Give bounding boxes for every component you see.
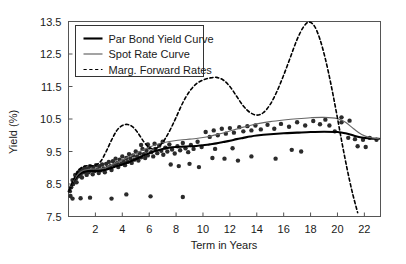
scatter-point — [181, 195, 185, 199]
y-tick-label: 9.5 — [46, 146, 61, 158]
scatter-point — [273, 156, 277, 160]
scatter-point — [186, 150, 190, 154]
scatter-point — [279, 122, 283, 126]
scatter-point — [210, 156, 214, 160]
scatter-point — [88, 195, 92, 199]
scatter-point — [181, 141, 185, 145]
scatter-point — [107, 160, 111, 164]
y-tick-label: 8.5 — [46, 178, 61, 190]
scatter-point — [124, 192, 128, 196]
scatter-point — [259, 127, 263, 131]
x-tick-label: 2 — [92, 223, 98, 235]
scatter-point — [241, 129, 245, 133]
scatter-point — [167, 142, 171, 146]
x-tick-label: 12 — [224, 223, 236, 235]
scatter-point — [323, 117, 327, 121]
scatter-point — [212, 128, 216, 132]
scatter-point — [346, 136, 350, 140]
scatter-point — [347, 118, 351, 122]
scatter-point — [249, 128, 253, 132]
y-tick-label: 10.5 — [40, 113, 61, 125]
scatter-point — [120, 154, 124, 158]
x-tick-label: 18 — [304, 223, 316, 235]
scatter-point — [173, 151, 177, 155]
scatter-point — [139, 143, 143, 147]
y-axis-title: Yield (%) — [7, 110, 19, 154]
scatter-point — [78, 196, 82, 200]
scatter-point — [165, 149, 169, 153]
scatter-point — [195, 140, 199, 144]
scatter-point — [311, 119, 315, 123]
y-tick-label: 12.5 — [40, 48, 61, 60]
scatter-point — [220, 127, 224, 131]
chart-legend: Par Bond Yield CurveSpot Rate CurveMarg.… — [76, 26, 214, 77]
scatter-point — [109, 196, 113, 200]
scatter-point — [355, 144, 359, 148]
scatter-point — [191, 147, 195, 151]
x-tick-label: 16 — [278, 223, 290, 235]
scatter-point — [249, 154, 253, 158]
x-tick-label: 14 — [251, 223, 263, 235]
x-axis-title: Term in Years — [191, 239, 258, 251]
scatter-point — [161, 153, 165, 157]
legend-label-2: Spot Rate Curve — [109, 48, 190, 60]
scatter-point — [148, 194, 152, 198]
scatter-point — [230, 146, 234, 150]
scatter-point — [265, 123, 269, 127]
x-tick-label: 22 — [358, 223, 370, 235]
scatter-point — [236, 158, 240, 162]
scatter-point — [295, 120, 299, 124]
scatter-point — [232, 130, 236, 134]
yield-curve-chart: 7.58.59.510.511.512.513.5 24681012141618… — [0, 0, 406, 264]
scatter-point — [222, 156, 226, 160]
scatter-point — [364, 145, 368, 149]
scatter-point — [169, 162, 173, 166]
x-tick-label: 20 — [331, 223, 343, 235]
y-tick-label: 13.5 — [40, 16, 61, 28]
scatter-point — [151, 154, 155, 158]
chart-canvas: 7.58.59.510.511.512.513.5 24681012141618… — [0, 0, 406, 264]
scatter-point — [303, 123, 307, 127]
x-tick-label: 10 — [197, 223, 209, 235]
y-tick-label: 11.5 — [41, 81, 62, 93]
scatter-point — [228, 126, 232, 130]
scatter-point — [80, 175, 84, 179]
scatter-point — [187, 162, 191, 166]
scatter-point — [272, 127, 276, 131]
legend-label-3: Marg. Forward Rates — [109, 64, 213, 76]
scatter-point — [197, 165, 201, 169]
scatter-point — [353, 137, 357, 141]
scatter-point — [113, 156, 117, 160]
scatter-point — [290, 148, 294, 152]
x-tick-label: 6 — [146, 223, 152, 235]
scatter-point — [70, 196, 74, 200]
y-tick-label: 7.5 — [46, 211, 61, 223]
scatter-point — [178, 148, 182, 152]
scatter-point — [177, 164, 181, 168]
x-tick-label: 8 — [173, 223, 179, 235]
x-tick-label: 4 — [119, 223, 125, 235]
legend-label-1: Par Bond Yield Curve — [109, 33, 214, 45]
scatter-point — [213, 147, 217, 151]
scatter-point — [318, 122, 322, 126]
scatter-point — [287, 125, 291, 129]
scatter-point — [100, 162, 104, 166]
scatter-point — [327, 123, 331, 127]
scatter-point — [299, 149, 303, 153]
scatter-point — [203, 130, 207, 134]
